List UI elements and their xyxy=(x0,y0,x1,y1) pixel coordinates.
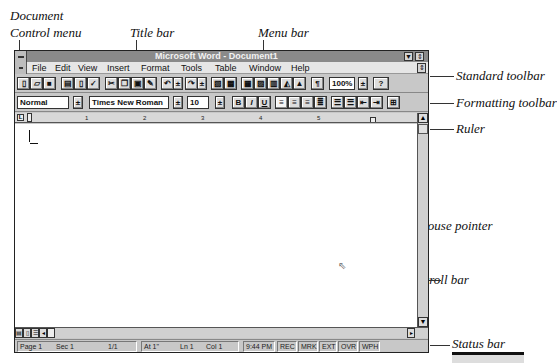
tab-selector-button[interactable]: L xyxy=(17,114,24,121)
menu-bar: File Edit View Insert Format Tools Table… xyxy=(15,62,428,74)
scroll-down-icon[interactable]: ▼ xyxy=(418,317,428,327)
menu-tools[interactable]: Tools xyxy=(181,62,202,74)
callout-line-standard xyxy=(430,76,454,77)
status-line: Ln 1 xyxy=(180,342,194,351)
menu-insert[interactable]: Insert xyxy=(107,62,130,74)
chart-icon[interactable]: ▲ xyxy=(293,77,306,90)
mouse-pointer-icon: ⇖ xyxy=(338,260,346,271)
horizontal-scroll-thumb[interactable] xyxy=(47,328,55,338)
right-indent-marker[interactable] xyxy=(370,117,376,122)
format-painter-icon[interactable]: ✎ xyxy=(144,77,157,90)
status-page: Page 1 xyxy=(20,343,42,350)
align-center-icon[interactable]: ≡ xyxy=(288,96,301,109)
document-control-menu-icon[interactable] xyxy=(15,62,27,74)
font-size-select[interactable]: 10 xyxy=(187,96,209,109)
print-icon[interactable]: ▤ xyxy=(61,77,74,90)
menu-format[interactable]: Format xyxy=(141,62,170,74)
ruler-number: 4 xyxy=(259,113,262,123)
scroll-thumb[interactable] xyxy=(418,124,428,134)
callout-document: Document xyxy=(10,8,63,24)
ruler-number: 3 xyxy=(201,113,204,123)
columns-icon[interactable]: ▥ xyxy=(267,77,280,90)
italic-button[interactable]: I xyxy=(245,96,258,109)
copy-icon[interactable]: ❐ xyxy=(118,77,131,90)
ruler[interactable]: L 1 2 3 4 5 xyxy=(15,113,428,123)
font-select[interactable]: Times New Roman xyxy=(89,96,169,109)
style-select[interactable]: Normal xyxy=(17,96,69,109)
cut-scissors-icon[interactable]: ✂ xyxy=(105,77,118,90)
autoformat-icon[interactable]: ▧ xyxy=(211,77,224,90)
status-time: 9:44 PM xyxy=(243,341,275,352)
new-document-icon[interactable]: ▯ xyxy=(17,77,30,90)
zoom-dropdown-icon[interactable]: ± xyxy=(358,77,368,90)
minimize-button[interactable]: ▼ xyxy=(404,52,413,61)
align-left-icon[interactable]: ≡ xyxy=(275,96,288,109)
status-at: At 1" xyxy=(144,343,159,350)
normal-view-icon[interactable]: ▤ xyxy=(15,328,23,338)
open-folder-icon[interactable]: ▱ xyxy=(30,77,43,90)
menu-table[interactable]: Table xyxy=(215,62,237,74)
decrease-indent-icon[interactable]: ⇤ xyxy=(357,96,370,109)
ruler-number: 5 xyxy=(317,113,320,123)
numbering-icon[interactable]: ☰ xyxy=(331,96,344,109)
callout-title-bar: Title bar xyxy=(130,25,174,41)
status-bar: Page 1 Sec 1 1/1 At 1" Ln 1 Col 1 9:44 P… xyxy=(15,339,428,352)
zoom-control[interactable]: 100% xyxy=(329,77,355,90)
callout-menu-bar: Menu bar xyxy=(258,25,309,41)
indent-marker[interactable] xyxy=(27,113,32,122)
bold-button[interactable]: B xyxy=(232,96,245,109)
scroll-left-icon[interactable]: ◂ xyxy=(39,328,47,338)
undo-dropdown-icon[interactable]: ± xyxy=(173,77,183,90)
status-ext[interactable]: EXT xyxy=(319,341,337,352)
horizontal-scrollbar[interactable]: ▤ ▯ ☰ ◂ ▸ xyxy=(15,327,428,338)
status-rec[interactable]: REC xyxy=(277,341,297,352)
print-preview-icon[interactable]: ▯ xyxy=(74,77,87,90)
redo-dropdown-icon[interactable]: ± xyxy=(197,77,207,90)
drawing-icon[interactable]: ◭ xyxy=(280,77,293,90)
font-dropdown-icon[interactable]: ± xyxy=(173,96,183,109)
help-pointer-icon[interactable]: ? xyxy=(373,77,389,90)
status-pages: 1/1 xyxy=(108,342,118,351)
title-bar[interactable]: Microsoft Word - Document1 ▼ ⇕ xyxy=(15,51,428,62)
insert-excel-icon[interactable]: ▨ xyxy=(254,77,267,90)
status-position: At 1" Ln 1 Col 1 xyxy=(141,341,239,352)
scroll-up-icon[interactable]: ▲ xyxy=(418,113,428,123)
menu-edit[interactable]: Edit xyxy=(55,62,71,74)
paste-clipboard-icon[interactable]: ▣ xyxy=(131,77,144,90)
bullets-icon[interactable]: ☰ xyxy=(344,96,357,109)
menu-file[interactable]: File xyxy=(32,62,47,74)
style-dropdown-icon[interactable]: ± xyxy=(73,96,83,109)
scroll-right-icon[interactable]: ▸ xyxy=(407,328,415,338)
vertical-scrollbar[interactable]: ▲ ▼ xyxy=(417,113,428,327)
save-disk-icon[interactable]: ■ xyxy=(43,77,56,90)
status-wph[interactable]: WPH xyxy=(359,341,380,352)
insert-address-icon[interactable]: ▩ xyxy=(224,77,237,90)
show-hide-pilcrow-icon[interactable]: ¶ xyxy=(311,77,324,90)
ruler-number: 2 xyxy=(143,113,146,123)
underline-button[interactable]: U xyxy=(258,96,271,109)
justify-icon[interactable]: ≣ xyxy=(314,96,327,109)
standard-toolbar: ▯ ▱ ■ ▤ ▯ ✓ ✂ ❐ ▣ ✎ ↶ ± ↷ ± ▧ ▩ ▦ ▨ ▥ ◭ … xyxy=(15,75,428,93)
font-size-dropdown-icon[interactable]: ± xyxy=(215,96,225,109)
formatting-toolbar: Normal ± Times New Roman ± 10 ± B I U ≡ … xyxy=(15,94,428,112)
word-window: Microsoft Word - Document1 ▼ ⇕ File Edit… xyxy=(14,50,429,353)
status-mrk[interactable]: MRK xyxy=(298,341,318,352)
status-ovr[interactable]: OVR xyxy=(338,341,358,352)
maximize-button[interactable]: ⇕ xyxy=(415,52,424,61)
increase-indent-icon[interactable]: ⇥ xyxy=(370,96,383,109)
callout-line-formatting xyxy=(430,103,454,104)
document-restore-button[interactable]: ⇕ xyxy=(417,63,426,73)
ruler-number: 1 xyxy=(85,113,88,123)
document-area[interactable]: ⇖ xyxy=(15,124,417,327)
menu-window[interactable]: Window xyxy=(249,62,281,74)
insert-table-icon[interactable]: ▦ xyxy=(241,77,254,90)
spelling-icon[interactable]: ✓ xyxy=(87,77,100,90)
align-right-icon[interactable]: ≡ xyxy=(301,96,314,109)
outline-view-icon[interactable]: ☰ xyxy=(31,328,39,338)
status-section: Sec 1 xyxy=(56,342,74,351)
page-layout-view-icon[interactable]: ▯ xyxy=(23,328,31,338)
borders-icon[interactable]: ⊞ xyxy=(387,96,400,109)
app-control-menu-icon[interactable] xyxy=(15,51,27,62)
menu-view[interactable]: View xyxy=(78,62,97,74)
menu-help[interactable]: Help xyxy=(291,62,310,74)
